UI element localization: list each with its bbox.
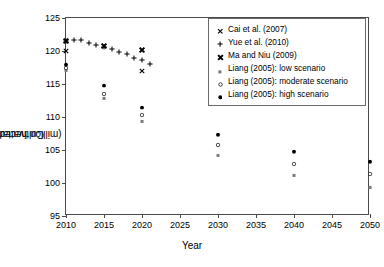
legend-item-3[interactable]: Ma and Niu (2009) — [212, 49, 361, 62]
marker-plus-icon — [109, 46, 115, 52]
marker-open-circle-icon — [102, 91, 107, 96]
marker-open-circle-icon — [64, 65, 69, 70]
data-point — [93, 42, 99, 48]
data-point — [64, 68, 68, 73]
y-tick-mark — [62, 150, 66, 151]
marker-small-square-icon — [216, 152, 220, 157]
marker-filled-circle-icon — [218, 86, 223, 104]
legend-item-5[interactable]: Liang (2005): moderate scenario — [212, 75, 361, 88]
data-point — [101, 43, 108, 50]
marker-open-circle-icon — [368, 172, 373, 177]
data-point — [131, 55, 137, 61]
y-tick-mark — [62, 84, 66, 85]
data-point — [102, 83, 107, 88]
data-point — [86, 40, 92, 46]
data-point — [71, 37, 77, 43]
y-tick-label-105: 105 — [45, 146, 60, 155]
data-point — [124, 51, 130, 57]
x-tick-label-2020: 2020 — [132, 221, 152, 230]
legend-item-2[interactable]: Yue et al. (2010) — [212, 36, 361, 49]
data-point — [102, 95, 106, 100]
x-tick-mark — [104, 214, 105, 218]
marker-filled-circle-icon — [140, 105, 145, 110]
marker-filled-circle-icon — [292, 149, 297, 154]
x-tick-mark — [294, 214, 295, 218]
data-point — [140, 105, 145, 110]
data-point — [292, 149, 297, 154]
x-tick-mark — [142, 214, 143, 218]
marker-plus-icon — [63, 38, 69, 44]
marker-plus-icon — [147, 60, 153, 66]
y-tick-label-120: 120 — [45, 47, 60, 56]
marker-filled-circle-icon — [102, 83, 107, 88]
x-tick-label-2045: 2045 — [322, 221, 342, 230]
marker-small-square-icon — [64, 68, 68, 73]
legend-label: Cai et al. (2007) — [228, 25, 287, 34]
legend-label: Liang (2005): low scenario — [228, 64, 325, 73]
data-point — [140, 118, 144, 123]
legend-label: Ma and Niu (2009) — [228, 51, 297, 60]
data-point — [139, 47, 146, 54]
x-tick-mark — [332, 214, 333, 218]
x-tick-mark — [218, 214, 219, 218]
marker-x-icon — [139, 68, 146, 75]
x-tick-mark — [370, 214, 371, 218]
x-tick-label-2030: 2030 — [208, 221, 228, 230]
marker-x-bold-icon — [63, 38, 70, 45]
marker-plus-icon — [131, 55, 137, 61]
y-tick-mark — [62, 117, 66, 118]
marker-filled-circle-icon — [368, 159, 373, 164]
marker-plus-icon — [71, 37, 77, 43]
data-point — [292, 173, 296, 178]
marker-open-circle-icon — [216, 142, 221, 147]
data-point — [147, 60, 153, 66]
marker-small-square-icon — [368, 184, 372, 189]
data-point — [368, 184, 372, 189]
legend-label: Yue et al. (2010) — [228, 38, 289, 47]
data-point — [139, 68, 146, 75]
marker-plus-icon — [78, 37, 84, 43]
x-tick-label-2015: 2015 — [94, 221, 114, 230]
data-point — [140, 113, 145, 118]
marker-plus-icon — [86, 40, 92, 46]
marker-open-circle-icon — [292, 161, 297, 166]
legend-label: Liang (2005): moderate scenario — [228, 77, 348, 86]
legend-item-6[interactable]: Liang (2005): high scenario — [212, 88, 361, 101]
data-point — [292, 161, 297, 166]
y-tick-mark — [62, 18, 66, 19]
marker-open-circle-icon — [140, 113, 145, 118]
marker-plus-icon — [101, 44, 107, 50]
marker-small-square-icon — [140, 118, 144, 123]
data-point — [216, 142, 221, 147]
legend-item-1[interactable]: Cai et al. (2007) — [212, 23, 361, 36]
marker-x-bold-icon — [139, 47, 146, 54]
marker-small-square-icon — [292, 173, 296, 178]
marker-filled-circle-icon — [216, 132, 221, 137]
marker-small-square-icon — [102, 95, 106, 100]
data-point — [64, 62, 69, 67]
legend-item-4[interactable]: Liang (2005): low scenario — [212, 62, 361, 75]
data-point — [216, 132, 221, 137]
data-point — [109, 46, 115, 52]
x-tick-label-2035: 2035 — [246, 221, 266, 230]
legend-marker — [212, 86, 228, 104]
y-tick-label-100: 100 — [45, 179, 60, 188]
data-point — [216, 152, 220, 157]
x-axis-title: Year — [0, 240, 384, 251]
data-point — [368, 172, 373, 177]
x-tick-label-2040: 2040 — [284, 221, 304, 230]
figure: Cultivated land area (million hectares) … — [0, 0, 384, 267]
data-point — [139, 57, 145, 63]
data-point — [64, 65, 69, 70]
x-tick-mark — [256, 214, 257, 218]
data-point — [368, 159, 373, 164]
data-point — [63, 38, 69, 44]
y-tick-mark — [62, 51, 66, 52]
legend-label: Liang (2005): high scenario — [228, 90, 329, 99]
y-tick-label-115: 115 — [46, 80, 60, 89]
marker-filled-circle-icon — [64, 62, 69, 67]
y-tick-label-125: 125 — [45, 14, 60, 23]
data-point — [78, 37, 84, 43]
legend: Cai et al. (2007)Yue et al. (2010)Ma and… — [208, 18, 366, 106]
data-point — [63, 38, 70, 45]
